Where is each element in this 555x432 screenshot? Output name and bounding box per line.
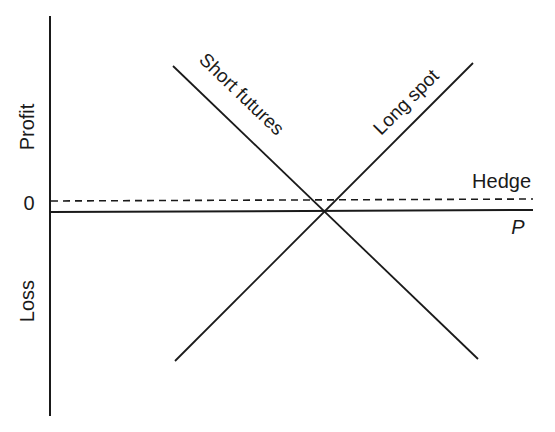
price-axis: [50, 210, 533, 212]
hedge-label: Hedge: [472, 170, 531, 192]
short-futures-line: [173, 66, 478, 359]
hedge-line: [51, 199, 533, 201]
profit-label: Profit: [16, 103, 38, 150]
short-futures-label: Short futures: [195, 49, 288, 139]
zero-label: 0: [23, 192, 34, 214]
long-spot-label: Long spot: [369, 64, 443, 138]
loss-label: Loss: [16, 280, 38, 322]
hedging-diagram: Profit Loss 0 P Hedge Short futures Long…: [0, 0, 555, 432]
price-axis-label: P: [511, 216, 525, 238]
